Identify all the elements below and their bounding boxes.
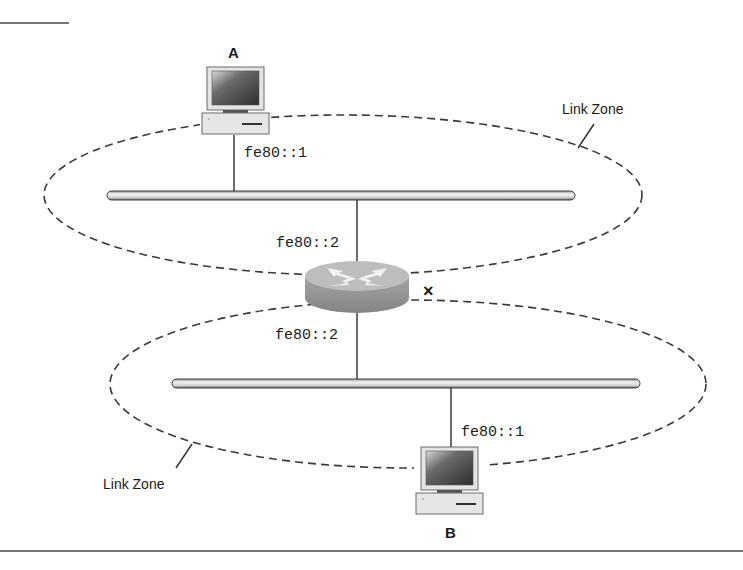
host-a-label: A — [228, 44, 239, 61]
host-b-computer-icon — [416, 447, 483, 514]
router-bottom-interface-address: fe80::2 — [275, 327, 338, 344]
bottom-bus — [172, 379, 640, 388]
top-bus — [107, 191, 575, 200]
host-b-label: B — [445, 524, 456, 541]
host-b-address: fe80::1 — [461, 424, 524, 441]
router-icon — [305, 261, 409, 313]
link-zone-top-label: Link Zone — [562, 101, 623, 117]
link-zone-top-leader — [578, 124, 594, 148]
link-zone-bottom-leader — [176, 444, 192, 468]
host-a-computer-icon — [202, 67, 269, 134]
router-top-interface-address: fe80::2 — [276, 235, 339, 252]
link-zone-bottom-label: Link Zone — [103, 476, 164, 492]
host-a-address: fe80::1 — [244, 145, 307, 162]
blocked-cross-icon: × — [423, 281, 434, 302]
